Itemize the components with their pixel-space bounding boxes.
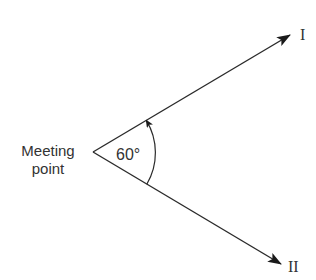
origin-label-line2: point [32,160,65,177]
ray-upper-label: I [300,26,305,43]
ray-upper [93,35,290,152]
ray-lower-label: II [288,258,299,275]
angle-diagram: Meeting point 60° I II [0,0,316,280]
ray-lower [93,152,281,264]
origin-label-line1: Meeting [21,142,74,159]
angle-arc [146,120,155,184]
angle-label: 60° [116,146,140,163]
